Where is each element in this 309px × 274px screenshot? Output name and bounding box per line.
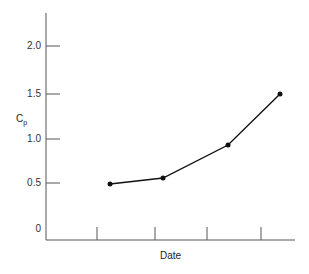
x-axis-label: Date bbox=[160, 250, 181, 261]
y-tick-label: 2.0 bbox=[17, 40, 41, 51]
y-axis-label-sub: p bbox=[23, 119, 27, 126]
y-ticks bbox=[46, 46, 60, 183]
y-axis-label: Cp bbox=[16, 113, 27, 126]
data-points bbox=[108, 92, 283, 187]
y-tick-label: 0 bbox=[17, 223, 41, 234]
chart-canvas bbox=[0, 0, 309, 274]
y-tick-label: 1.5 bbox=[17, 88, 41, 99]
y-tick-label: 1.0 bbox=[17, 133, 41, 144]
data-line bbox=[110, 94, 280, 184]
y-tick-label: 0.5 bbox=[17, 177, 41, 188]
x-ticks bbox=[97, 227, 261, 240]
